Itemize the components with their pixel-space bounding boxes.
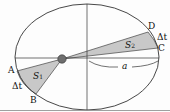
point-d-label: D bbox=[148, 22, 155, 31]
area-s2-label: S2 bbox=[125, 41, 135, 50]
sector-s2 bbox=[62, 32, 158, 59]
area-s2-sub: 2 bbox=[131, 42, 135, 49]
area-s1-sub: 1 bbox=[39, 73, 43, 80]
sun-focus bbox=[58, 55, 66, 63]
area-s1-label: S1 bbox=[33, 72, 43, 81]
diagram-svg bbox=[0, 0, 170, 112]
point-b-label: B bbox=[30, 96, 37, 105]
point-a-label: A bbox=[8, 66, 15, 75]
delta-t-left-label: Δt bbox=[12, 82, 22, 91]
semi-major-axis-label: a bbox=[122, 62, 127, 71]
delta-t-right-label: Δt bbox=[157, 33, 167, 42]
point-c-label: C bbox=[158, 44, 165, 53]
kepler-diagram: A B C D Δt Δt S1 S2 a bbox=[0, 0, 170, 112]
